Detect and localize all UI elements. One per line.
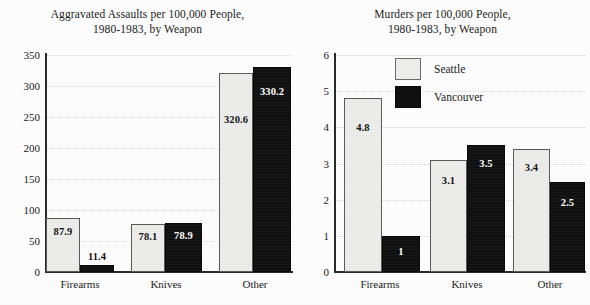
bar-value-assaults-knives-vancouver: 78.9 <box>174 230 193 241</box>
bar-murders-other-vancouver[interactable]: 2.5 <box>550 182 585 272</box>
legend-label-vancouver: Vancouver <box>434 91 483 103</box>
x-category-label-firearms: Firearms <box>360 278 399 290</box>
bar-value-assaults-other-seattle: 320.6 <box>224 114 248 125</box>
chart-panel-assaults: Aggravated Assaults per 100,000 People, … <box>0 0 295 305</box>
bar-value-assaults-firearms-seattle: 87.9 <box>54 226 73 237</box>
legend-item-vancouver[interactable]: Vancouver <box>395 86 483 108</box>
bar-value-murders-firearms-seattle: 4.8 <box>356 122 369 133</box>
chart-title-line1: Aggravated Assaults per 100,000 People, <box>51 8 245 20</box>
bar-assaults-firearms-vancouver[interactable]: 11.4 <box>80 265 114 272</box>
y-tick-label-0: 0 <box>324 266 330 278</box>
bar-value-murders-other-vancouver: 2.5 <box>561 197 574 208</box>
bar-value-assaults-knives-seattle: 78.1 <box>139 231 158 242</box>
y-tick-label-4: 4 <box>324 121 330 133</box>
y-tick-label-2: 2 <box>324 194 330 206</box>
chart-panel-murders: Murders per 100,000 People, 1980-1983, b… <box>295 0 590 305</box>
bar-murders-knives-vancouver[interactable]: 3.5 <box>467 145 505 272</box>
bar-murders-other-seattle[interactable]: 3.4 <box>513 149 550 272</box>
y-tick-label-3: 3 <box>324 158 330 170</box>
bar-murders-firearms-seattle[interactable]: 4.8 <box>344 98 382 272</box>
bar-assaults-firearms-seattle[interactable]: 87.9 <box>46 218 80 273</box>
y-tick-label-250: 250 <box>24 111 41 123</box>
y-tick-label-50: 50 <box>29 235 40 247</box>
bar-murders-firearms-vancouver[interactable]: 1 <box>382 236 420 272</box>
y-tick-label-1: 1 <box>324 230 330 242</box>
legend-item-seattle[interactable]: Seattle <box>395 58 465 80</box>
chart-title-line1: Murders per 100,000 People, <box>374 8 511 20</box>
bar-assaults-knives-seattle[interactable]: 78.1 <box>131 224 165 272</box>
y-axis-line <box>334 53 336 272</box>
chart-title-line2: 1980-1983, by Weapon <box>295 22 590 37</box>
figure-page: Aggravated Assaults per 100,000 People, … <box>0 0 590 305</box>
bar-value-assaults-other-vancouver: 330.2 <box>260 86 284 97</box>
chart-title-murders: Murders per 100,000 People, 1980-1983, b… <box>295 7 590 36</box>
x-category-label-firearms: Firearms <box>60 278 99 290</box>
bar-assaults-other-vancouver[interactable]: 330.2 <box>253 67 291 272</box>
chart-title-assaults: Aggravated Assaults per 100,000 People, … <box>0 7 295 36</box>
bar-murders-knives-seattle[interactable]: 3.1 <box>430 160 467 272</box>
bar-assaults-other-seattle[interactable]: 320.6 <box>219 73 253 272</box>
bar-value-murders-knives-vancouver: 3.5 <box>479 158 492 169</box>
legend-label-seattle: Seattle <box>434 63 465 75</box>
x-category-label-other: Other <box>537 278 562 290</box>
gridline-350 <box>46 55 292 57</box>
y-tick-label-300: 300 <box>24 80 41 92</box>
y-tick-label-100: 100 <box>24 204 41 216</box>
y-tick-label-350: 350 <box>24 49 41 61</box>
bar-assaults-knives-vancouver[interactable]: 78.9 <box>165 223 202 272</box>
y-tick-label-5: 5 <box>324 85 330 97</box>
bar-value-murders-knives-seattle: 3.1 <box>442 175 455 186</box>
y-tick-label-200: 200 <box>24 142 41 154</box>
gridline-6 <box>335 55 585 57</box>
y-tick-label-0: 0 <box>35 266 41 278</box>
legend-swatch-vancouver-icon <box>395 86 421 108</box>
x-category-label-knives: Knives <box>451 278 482 290</box>
chart-title-line2: 1980-1983, by Weapon <box>0 22 295 37</box>
y-tick-label-6: 6 <box>324 49 330 61</box>
x-category-label-knives: Knives <box>150 278 181 290</box>
x-category-label-other: Other <box>242 278 267 290</box>
legend-swatch-seattle-icon <box>395 58 421 80</box>
bar-value-murders-other-seattle: 3.4 <box>525 162 538 173</box>
plot-area-assaults: 350 300 250 200 150 100 50 0 87.9 11.4 7… <box>46 55 292 272</box>
y-tick-label-150: 150 <box>24 173 41 185</box>
bar-value-murders-firearms-vancouver: 1 <box>398 246 403 257</box>
bar-value-assaults-firearms-vancouver: 11.4 <box>88 251 106 262</box>
